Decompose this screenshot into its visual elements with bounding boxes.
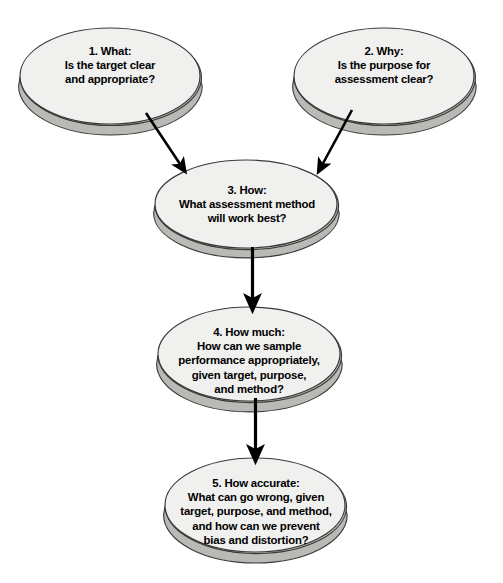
assessment-questions-diagram: 1. What: Is the target clear and appropr… — [0, 0, 503, 583]
node-why — [293, 28, 477, 135]
node-how-face — [155, 160, 337, 248]
node-how-much — [157, 307, 343, 412]
node-why-face — [294, 28, 474, 124]
node-how-accurate — [164, 458, 348, 563]
node-how — [154, 160, 340, 258]
node-how-accurate-face — [165, 458, 345, 552]
diagram-canvas — [0, 0, 503, 583]
node-how-much-face — [158, 307, 340, 401]
node-what-face — [20, 28, 200, 124]
node-what — [19, 28, 203, 135]
